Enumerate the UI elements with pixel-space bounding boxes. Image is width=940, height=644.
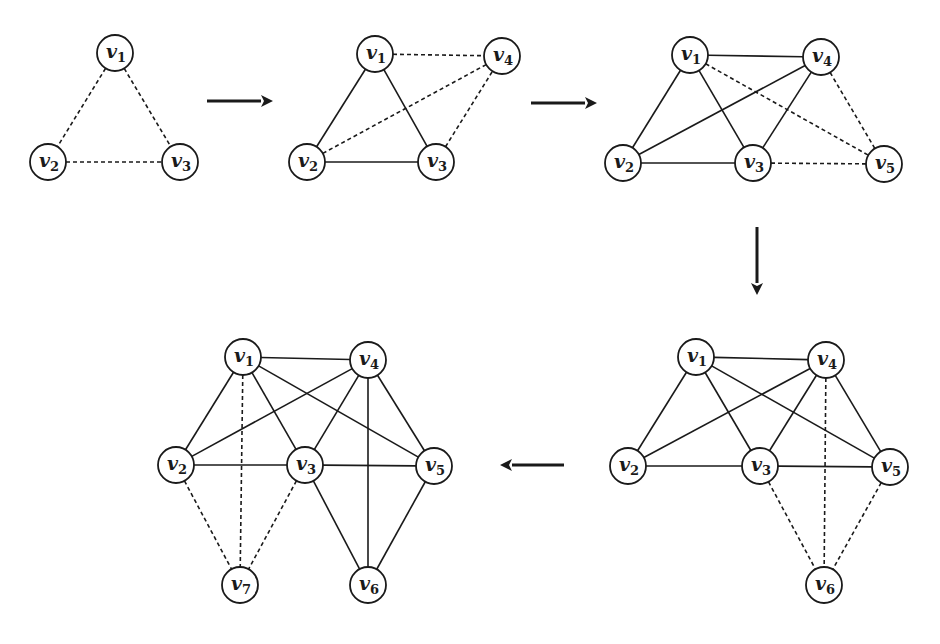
node-label-subscript: 2 <box>630 463 639 478</box>
node-v6: v6 <box>806 567 842 603</box>
nodes: v1v4v2v3v5 <box>605 37 902 182</box>
node-label-subscript: 3 <box>438 159 447 174</box>
node-v4: v4 <box>803 39 839 75</box>
node-v4: v4 <box>808 342 844 378</box>
nodes: v1v4v2v3v5v6 <box>610 339 908 603</box>
node-label-subscript: 3 <box>307 462 316 477</box>
edge-v3-v7-dashed <box>249 481 297 569</box>
edge-v1-v5-solid <box>259 366 419 457</box>
node-v4: v4 <box>350 342 386 378</box>
node-label-subscript: 5 <box>436 463 445 478</box>
node-v6: v6 <box>350 567 386 603</box>
node-label-subscript: 1 <box>377 51 386 66</box>
edge-v5-v6-solid <box>377 482 426 570</box>
graph-step-5: v1v4v2v3v5v7v6 <box>158 339 452 603</box>
edge-v2-v4-solid <box>644 368 810 457</box>
node-v2: v2 <box>30 144 66 180</box>
edge-v1-v2-solid <box>317 69 366 147</box>
edges <box>57 68 170 162</box>
node-v5: v5 <box>866 146 902 182</box>
node-label-subscript: 2 <box>625 160 634 175</box>
node-v2: v2 <box>158 447 194 483</box>
edge-v3-v6-solid <box>313 481 359 569</box>
arrow-head-icon <box>500 459 512 471</box>
node-v1: v1 <box>225 339 261 375</box>
edge-v1-v7-dashed <box>240 375 243 567</box>
edge-v2-v4-solid <box>192 369 352 457</box>
edge-v4-v6-dashed <box>824 378 826 567</box>
edge-v1-v4-dashed <box>393 54 484 55</box>
node-v5: v5 <box>872 449 908 485</box>
node-v7: v7 <box>222 567 258 603</box>
node-label-subscript: 4 <box>370 357 379 372</box>
node-label-subscript: 1 <box>692 52 701 67</box>
node-label-subscript: 4 <box>504 53 513 68</box>
node-v3: v3 <box>742 448 778 484</box>
node-v1: v1 <box>357 36 393 72</box>
node-label-subscript: 5 <box>892 464 901 479</box>
edge-v1-v4-solid <box>261 357 350 359</box>
node-label-subscript: 6 <box>826 582 835 597</box>
node-label-subscript: 5 <box>886 161 895 176</box>
node-label-subscript: 6 <box>370 582 379 597</box>
arrow-2-to-3-icon <box>531 97 597 109</box>
graph-step-1: v1v2v3 <box>30 35 198 180</box>
edge-v2-v4-solid <box>639 65 805 154</box>
arrows-layer <box>207 95 763 471</box>
graph-step-3: v1v4v2v3v5 <box>605 37 902 182</box>
edge-v3-v5-dashed <box>771 163 866 164</box>
node-v2: v2 <box>289 144 325 180</box>
graph-step-2: v1v4v2v3 <box>289 36 520 180</box>
arrow-4-to-5-icon <box>500 459 564 471</box>
arrow-head-icon <box>751 283 763 295</box>
nodes: v1v4v2v3 <box>289 36 520 180</box>
arrow-head-icon <box>585 97 597 109</box>
node-v2: v2 <box>605 145 641 181</box>
node-label-subscript: 3 <box>182 159 191 174</box>
edge-v1-v2-dashed <box>57 68 105 146</box>
node-label-subscript: 1 <box>117 50 126 65</box>
node-label-subscript: 2 <box>50 159 59 174</box>
edge-v5-v6-dashed <box>833 483 881 570</box>
node-v1: v1 <box>678 339 714 375</box>
node-v5: v5 <box>416 448 452 484</box>
edges <box>317 54 493 162</box>
node-v4: v4 <box>484 38 520 74</box>
node-label-subscript: 4 <box>828 357 837 372</box>
node-label-subscript: 4 <box>823 54 832 69</box>
node-label-subscript: 3 <box>755 160 764 175</box>
node-label-subscript: 1 <box>698 354 707 369</box>
arrow-head-icon <box>261 95 273 107</box>
graph-step-4: v1v4v2v3v5v6 <box>610 339 908 603</box>
arrow-3-to-4-icon <box>751 227 763 295</box>
node-label-subscript: 3 <box>762 463 771 478</box>
nodes: v1v4v2v3v5v7v6 <box>158 339 452 603</box>
edge-v2-v4-dashed <box>323 65 486 154</box>
edge-v3-v5-solid <box>778 466 872 467</box>
edge-v4-v5-solid <box>378 375 425 450</box>
node-label-subscript: 7 <box>242 582 251 597</box>
nodes: v1v2v3 <box>30 35 198 180</box>
node-label-subscript: 2 <box>178 462 187 477</box>
node-v1: v1 <box>672 37 708 73</box>
edge-v1-v4-solid <box>714 357 808 359</box>
node-v3: v3 <box>418 144 454 180</box>
edge-v3-v6-dashed <box>769 482 816 569</box>
edge-v1-v4-solid <box>708 55 803 56</box>
edge-v1-v3-dashed <box>124 68 171 146</box>
node-v3: v3 <box>735 145 771 181</box>
node-v3: v3 <box>162 144 198 180</box>
node-v1: v1 <box>97 35 133 71</box>
graph-construction-diagram: v1v2v3v1v4v2v3v1v4v2v3v5v1v4v2v3v5v6v1v4… <box>0 0 940 644</box>
node-label-subscript: 1 <box>245 354 254 369</box>
graphs-layer: v1v2v3v1v4v2v3v1v4v2v3v5v1v4v2v3v5v6v1v4… <box>30 35 908 603</box>
node-v3: v3 <box>287 447 323 483</box>
edge-v1-v5-dashed <box>706 64 869 155</box>
edge-v2-v7-dashed <box>184 481 231 569</box>
arrow-1-to-2-icon <box>207 95 273 107</box>
node-v2: v2 <box>610 448 646 484</box>
node-label-subscript: 2 <box>309 159 318 174</box>
edge-v3-v5-solid <box>323 465 416 466</box>
